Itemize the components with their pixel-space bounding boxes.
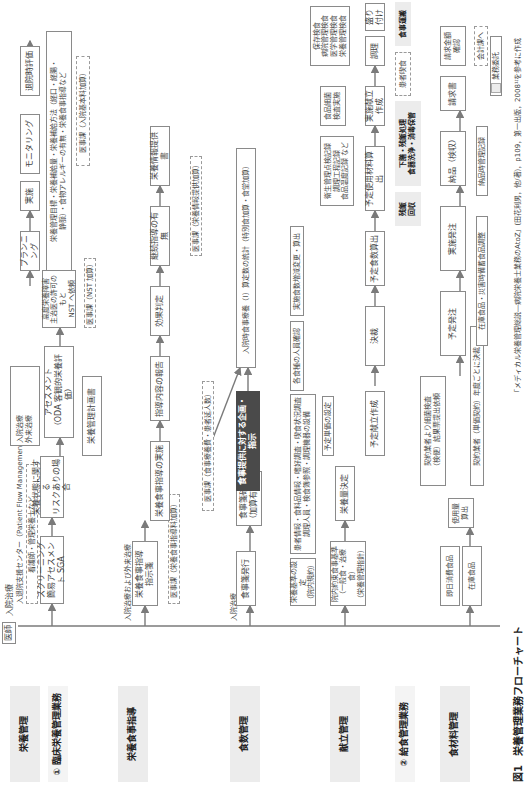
cat-nutrition-guidance: 栄養食事指導	[118, 686, 148, 782]
continue-box: 継続指導の有無	[150, 206, 170, 266]
meal-fee-box: 医事課（食事療養費・患者延人数）	[202, 381, 214, 511]
legend-outsourced: 業務委託	[490, 36, 502, 96]
cat-foodservice: ② 給食管理業務	[395, 686, 415, 782]
invoice-box: 請求書	[440, 76, 466, 111]
inpatient-label: 入院治療	[3, 584, 14, 616]
preserve-box: 保存検食 病院管理検食 医学管理検食 栄養管理検食	[310, 6, 350, 66]
stock-box: 在庫食品	[462, 546, 482, 606]
accounting-box: 会計課へ	[474, 26, 488, 66]
legend: 入院治療 外来治療	[10, 366, 40, 446]
actual-menu-box: 実施献立作成	[365, 86, 385, 126]
legend-outpatient: 外来治療	[25, 415, 34, 443]
info-doc-box: 栄養情報提供書	[150, 126, 170, 186]
guidance-exec-box: 栄養食事指導の実施	[150, 441, 170, 521]
in-and-out-label: 入院治療および外来治療	[122, 544, 132, 621]
receive-box: 納品（検収）	[440, 131, 466, 186]
leftovers-box: 残飯 回収	[395, 192, 421, 226]
nutrient-decision-box: 栄養量決定	[335, 466, 355, 521]
guidance-report-box: 指導内容の報告	[150, 356, 170, 421]
receive-record-box: 納品時管理記録	[476, 126, 488, 196]
actual-order-box: 実施発注	[440, 206, 466, 271]
plan-doc-box: 栄養管理計画書	[82, 376, 102, 456]
cat-menu-mgmt: 献立管理	[330, 686, 360, 782]
planning-detail-box: 栄養管理目標・栄養補給量・栄養補給方法（経口・経腸・ 静脈）・食物アレルギーの有…	[46, 31, 72, 271]
guidance-order-box: 栄養食事指導 指示箋	[132, 541, 158, 606]
actual-count-box: 実施食数増減変更・算出	[290, 226, 304, 316]
screening-box: スクリーニング 簡易アセスメント SGA	[40, 536, 64, 604]
menu-std-box: 院内約束食事基準 （一般食・治療食） （栄養管理指針）	[330, 541, 366, 606]
contract-annual-box: 契約業者（単価契約）年度ごとに決裁	[470, 326, 484, 486]
cat-clinical: ① 臨床栄養管理業務	[48, 686, 68, 782]
implement-box: 実施	[20, 181, 40, 211]
outsourced-swatch-icon	[491, 83, 501, 93]
figure-caption: 図1 栄養管理業務フローチャート	[510, 626, 525, 782]
cat-nutrition-mgmt: 栄養管理	[10, 686, 40, 782]
usage-box: 使用量算出	[448, 498, 474, 528]
each-staff-box: 各食種の人員確認	[290, 321, 304, 391]
monitoring-box: モニタリング	[20, 114, 40, 174]
flowchart-canvas: 医師 入院治療 入退院支援センター（Patient Flow Managemen…	[0, 0, 530, 786]
effect-box: 効果判定	[150, 286, 170, 336]
contractor-test-box: 契約業者より細菌検査 （検便）結果票提出依頼	[420, 376, 446, 486]
planned-material-box: 予定使用材料算出	[365, 146, 385, 211]
planned-menu-box: 予定献立作成	[365, 391, 385, 456]
bacteria-box: 食品細菌 検査実施	[320, 86, 346, 126]
meal-order-box: 食事箋発行	[236, 551, 256, 606]
delivery-box: 食事運搬	[395, 2, 411, 46]
cleanup-box: 下膳・残飯処理 食器洗浄・消毒保管	[395, 101, 421, 186]
cooking-box: 調理	[365, 36, 385, 66]
planned-order-box: 予定発注	[440, 291, 466, 356]
planning-box: プランニング	[20, 231, 40, 271]
cat-ingredient-mgmt: 食材料管理	[440, 686, 470, 782]
figure-frame: 医師 入院治療 入退院支援センター（Patient Flow Managemen…	[0, 0, 530, 786]
doctor-box: 医師	[2, 622, 16, 644]
caption-label: 図1	[513, 765, 524, 782]
high-risk-box: 高度栄養障害 主治医の許可のもと NST へ依頼	[42, 270, 76, 328]
eating-box: 患者喫食	[395, 52, 411, 96]
patient-info-box: 患者情報・食料品情報・嗜好調査・喫食状況調査 調理人員・検食簿参照・調理機器の設…	[290, 394, 316, 554]
same-day-box: 即日消費食品	[440, 546, 460, 606]
stock-adjust-box: 在庫食品・災害時備蓄食品調整	[476, 216, 488, 346]
meal-cost-box: 入院時食事療養（I）算定数の統計（特別食加算・食堂加算）	[236, 148, 256, 368]
legend-outsourced-label: 業務委託	[492, 52, 501, 80]
meal-plan-box: 食事提供に対する企画・指示	[236, 391, 260, 491]
hospital-fee-box: 医事課（入院基本料加算）	[76, 56, 90, 166]
discharge-eval-box: 退院時評価	[20, 46, 40, 96]
hygiene-records-box: 衛生管理点検記録 調理工程記録 食品温度記録 など	[320, 136, 354, 206]
nutrition-std-box: 栄養基準の設定 （院内規約）	[290, 558, 316, 606]
unit-price-box: 予定単価の設定	[322, 396, 334, 456]
legend-inpatient: 入院治療	[16, 415, 25, 443]
assessment-box: アセスメント （ODA 客観的栄養評価）	[44, 346, 74, 438]
info-fee-box: 医事課（栄養情報提供加算）	[190, 156, 202, 256]
amount-check-box: 請求金額 確認	[440, 26, 466, 66]
source-note: 「メディカル栄養管理総説―病院栄養士業務のAtoZ」(田花利男，他/著)，p10…	[512, 38, 522, 396]
caption-title: 栄養管理業務フローチャート	[513, 626, 524, 756]
plating-box: 盛り付け	[365, 3, 385, 31]
risk-box: 栄養状態に関する リスクありの場合	[40, 456, 64, 518]
approval-box: 決裁	[365, 306, 385, 366]
planned-count-box: 予定食数算出	[365, 231, 385, 286]
cat-meal-mgmt: 食数管理	[230, 686, 260, 782]
nst-fee-box: 医事課（NST 加算）	[84, 258, 96, 328]
